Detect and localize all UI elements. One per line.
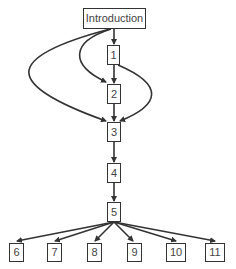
node-2: 2 xyxy=(107,84,121,104)
node-9: 9 xyxy=(127,243,142,262)
node-11: 11 xyxy=(205,243,225,262)
node-introduction: Introduction xyxy=(83,8,146,29)
node-8: 8 xyxy=(87,243,102,262)
node-6: 6 xyxy=(9,243,24,262)
node-4: 4 xyxy=(107,163,121,183)
node-5: 5 xyxy=(107,202,121,222)
edge-intro-3 xyxy=(29,29,110,121)
node-10: 10 xyxy=(166,243,186,262)
node-3: 3 xyxy=(107,122,121,142)
node-7: 7 xyxy=(47,243,62,262)
node-1: 1 xyxy=(107,45,120,65)
edge-1-3 xyxy=(118,65,152,121)
